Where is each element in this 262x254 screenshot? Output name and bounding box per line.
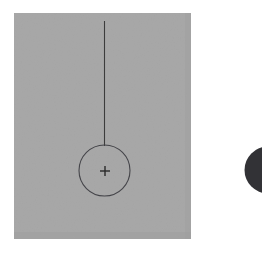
gray-panel-right-shade [185, 13, 191, 239]
gray-panel-texture [14, 13, 191, 239]
figure-svg [0, 0, 262, 254]
gray-panel-bottom-shade [14, 232, 191, 239]
figure-canvas [0, 0, 262, 254]
gray-panel-group [14, 13, 191, 239]
